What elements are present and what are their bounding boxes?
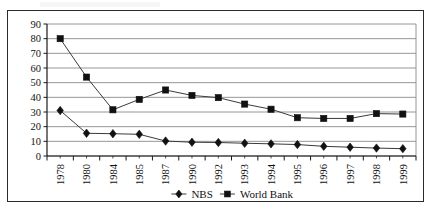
- data-point-marker-square: [268, 106, 274, 112]
- gridlines-group: [47, 24, 416, 156]
- y-tick-label: 60: [31, 63, 42, 74]
- x-tick-label: 1990: [187, 164, 198, 185]
- legend-group: NBSWorld Bank: [171, 188, 293, 200]
- x-tick-label: 1987: [160, 164, 171, 185]
- data-point-marker-square: [110, 107, 116, 113]
- x-tick-label: 1985: [134, 164, 145, 185]
- tick-labels-group: 0102030405060708090197819801984198519871…: [31, 19, 409, 185]
- data-point-marker-diamond: [215, 138, 222, 146]
- data-point-marker-square: [215, 95, 221, 101]
- x-tick-label: 1999: [398, 164, 409, 185]
- series-world-bank: [57, 36, 406, 122]
- data-point-marker-diamond: [241, 139, 248, 147]
- legend-label: World Bank: [240, 188, 294, 200]
- series-nbs: [57, 106, 406, 153]
- y-tick-label: 0: [36, 151, 41, 162]
- data-point-marker-square: [294, 115, 300, 121]
- data-point-marker-diamond: [57, 106, 64, 114]
- legend-item-nbs[interactable]: NBS: [171, 188, 212, 200]
- data-point-marker-diamond: [347, 143, 354, 151]
- data-point-marker-diamond: [83, 129, 90, 137]
- data-point-marker-square: [57, 36, 63, 42]
- x-tick-label: 1992: [213, 164, 224, 185]
- x-tick-label: 1997: [345, 164, 356, 185]
- y-tick-label: 30: [31, 107, 42, 118]
- y-tick-label: 80: [31, 33, 42, 44]
- x-tick-label: 1980: [81, 164, 92, 185]
- y-tick-label: 90: [31, 19, 42, 30]
- data-point-marker-square: [242, 101, 248, 107]
- data-point-marker-square: [224, 191, 230, 197]
- x-tick-label: 1978: [55, 164, 66, 185]
- data-point-marker-square: [400, 111, 406, 117]
- data-point-marker-square: [373, 111, 379, 117]
- data-point-marker-diamond: [176, 190, 182, 198]
- data-point-marker-diamond: [189, 138, 196, 146]
- legend-item-world-bank[interactable]: World Bank: [220, 188, 294, 200]
- data-point-marker-square: [136, 96, 142, 102]
- chart-figure: 0102030405060708090197819801984198519871…: [0, 0, 436, 213]
- data-point-marker-square: [189, 92, 195, 98]
- data-point-marker-square: [321, 115, 327, 121]
- y-tick-label: 20: [31, 121, 42, 132]
- y-tick-label: 40: [31, 92, 42, 103]
- x-tick-label: 1984: [108, 163, 119, 185]
- data-point-marker-diamond: [136, 130, 143, 138]
- data-point-marker-square: [347, 115, 353, 121]
- x-tick-label: 1994: [266, 163, 277, 185]
- data-point-marker-square: [163, 87, 169, 93]
- x-tick-label: 1996: [318, 164, 329, 185]
- x-tick-label: 1995: [292, 164, 303, 185]
- legend-label: NBS: [191, 188, 212, 200]
- x-tick-label: 1998: [371, 164, 382, 185]
- y-tick-label: 50: [31, 77, 42, 88]
- y-tick-label: 10: [31, 136, 42, 147]
- data-point-marker-diamond: [320, 142, 327, 150]
- data-point-marker-diamond: [162, 137, 169, 145]
- data-point-marker-diamond: [373, 144, 380, 152]
- data-point-marker-square: [83, 74, 89, 80]
- data-point-marker-diamond: [110, 130, 117, 138]
- data-point-marker-diamond: [400, 144, 407, 152]
- x-tick-label: 1993: [239, 164, 250, 185]
- y-tick-label: 70: [31, 48, 42, 59]
- line-chart-plot: 0102030405060708090197819801984198519871…: [0, 0, 436, 213]
